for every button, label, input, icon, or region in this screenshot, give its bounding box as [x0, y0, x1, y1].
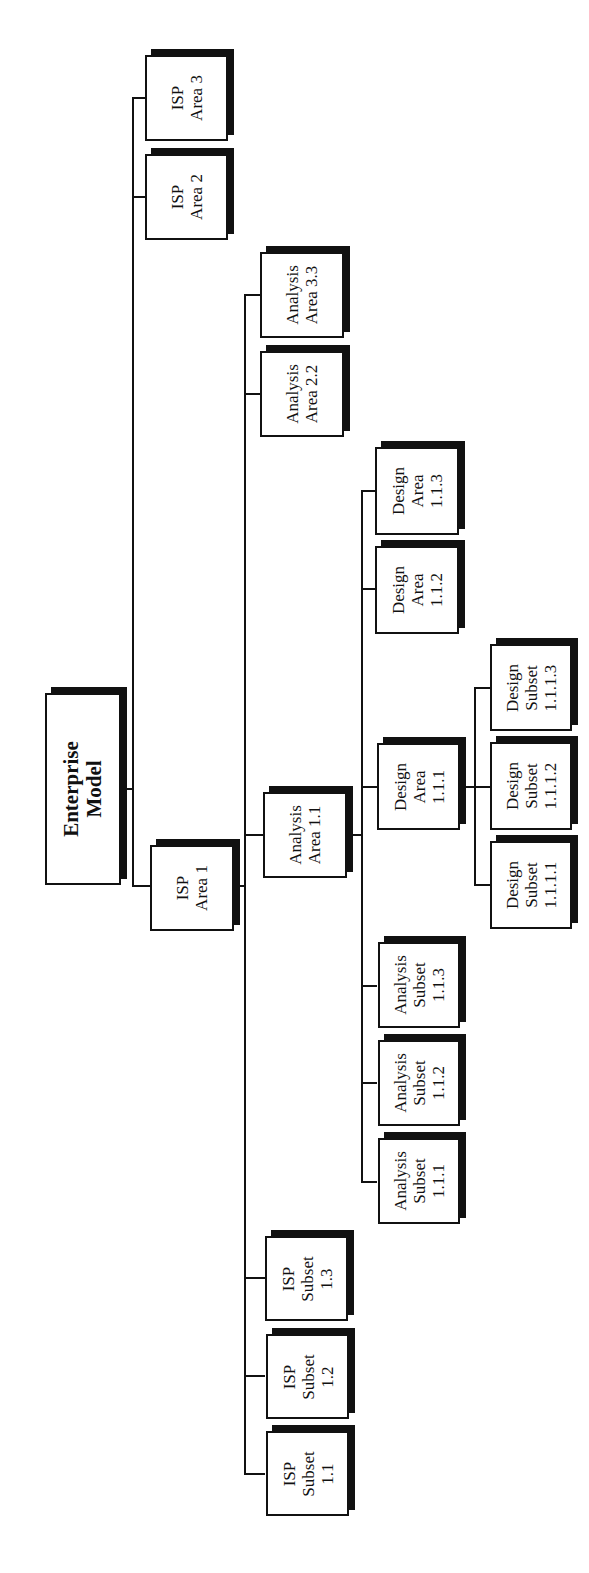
- node-label-line: Subset: [522, 663, 541, 711]
- node-label-line: ISP: [279, 1354, 298, 1399]
- node-label-line: Analysis: [391, 1151, 410, 1211]
- node-label-line: Design: [503, 762, 522, 810]
- node-isp-area-3: ISPArea 3: [145, 55, 228, 141]
- connector-design-1-1-1: [361, 786, 377, 788]
- node-analysis-area-2-2: AnalysisArea 2.2: [260, 351, 344, 437]
- connector-root-trunk: [132, 97, 134, 886]
- node-label-line: Subset: [298, 1354, 317, 1399]
- connector-isp-subset-1-1: [244, 1473, 265, 1475]
- node-label-line: 1.1.3: [427, 467, 446, 515]
- connector-analysis-3-3: [244, 294, 260, 296]
- node-label-line: Area 2.2: [302, 364, 321, 424]
- connector-analysis-subset-1-1-2: [361, 1082, 377, 1084]
- node-label-line: Subset: [410, 1053, 429, 1113]
- connector-analysis11-trunk: [361, 490, 363, 1183]
- node-label-line: Area 3: [187, 75, 206, 121]
- connector-analysis-2-2: [244, 393, 260, 395]
- connector-design-1-1-2: [361, 588, 375, 590]
- node-label-line: 1.1.1.3: [541, 663, 560, 711]
- node-label-line: ISP: [279, 1451, 298, 1496]
- node-isp-subset-1-2: ISPSubset1.2: [266, 1334, 349, 1419]
- node-label-line: Analysis: [391, 1053, 410, 1113]
- node-analysis-subset-1-1-1: AnalysisSubset1.1.1: [378, 1138, 460, 1224]
- node-design-subset-1-1-1-2: DesignSubset1.1.1.2: [490, 742, 572, 830]
- node-label-line: Design: [503, 861, 522, 909]
- node-design-area-1-1-3: DesignArea1.1.3: [375, 447, 459, 535]
- node-design-area-1-1-1: DesignArea1.1.1: [377, 743, 460, 830]
- node-label-line: Design: [389, 467, 408, 515]
- node-label-line: Area 1.1: [305, 805, 324, 865]
- node-label-line: Area 2: [187, 174, 206, 220]
- node-analysis-subset-1-1-2: AnalysisSubset1.1.2: [378, 1040, 460, 1126]
- node-analysis-area-3-3: AnalysisArea 3.3: [260, 252, 344, 338]
- node-analysis-subset-1-1-3: AnalysisSubset1.1.3: [378, 942, 460, 1028]
- connector-analysis-1-1: [244, 834, 263, 836]
- node-label-line: Area: [409, 762, 428, 810]
- node-label-line: 1.1.2: [429, 1053, 448, 1113]
- connector-isp-subset-1-2: [244, 1375, 265, 1377]
- connector-isp-area-1: [132, 885, 150, 887]
- node-label-line: 1.1.1.1: [541, 861, 560, 909]
- connector-isp-area-2: [132, 196, 146, 198]
- node-label-line: Area 3.3: [302, 265, 321, 325]
- node-label-line: Enterprise: [60, 741, 83, 837]
- node-isp-subset-1-3: ISPSubset1.3: [265, 1236, 348, 1321]
- node-label-line: Analysis: [283, 364, 302, 424]
- connector-isp-subset-1-3: [244, 1277, 265, 1279]
- node-label-line: 1.1.3: [429, 955, 448, 1015]
- node-label-line: Design: [390, 762, 409, 810]
- node-label-line: 1.1.1: [429, 1151, 448, 1211]
- node-label-line: Design: [389, 566, 408, 614]
- node-enterprise-model: EnterpriseModel: [45, 693, 121, 885]
- node-label-line: Analysis: [286, 805, 305, 865]
- node-label-line: Subset: [297, 1256, 316, 1301]
- node-label-line: Area: [408, 566, 427, 614]
- node-analysis-area-1-1: AnalysisArea 1.1: [263, 792, 347, 878]
- node-label-line: 1.1: [317, 1451, 336, 1496]
- node-label-line: Subset: [522, 762, 541, 810]
- node-label-line: Subset: [522, 861, 541, 909]
- node-isp-subset-1-1: ISPSubset1.1: [266, 1431, 349, 1516]
- node-label-line: 1.1.1.2: [541, 762, 560, 810]
- node-label-line: ISP: [168, 75, 187, 121]
- connector-analysis-subset-1-1-1: [361, 1181, 377, 1183]
- connector-analysis-subset-1-1-3: [361, 985, 377, 987]
- node-label-line: Subset: [410, 1151, 429, 1211]
- node-label-line: Analysis: [283, 265, 302, 325]
- connector-design-subset-1-1-1-1: [474, 884, 490, 886]
- node-label-line: 1.1.1: [428, 762, 447, 810]
- node-label-line: ISP: [168, 174, 187, 220]
- node-label-line: Area: [408, 467, 427, 515]
- connector-isp1-trunk: [244, 294, 246, 1474]
- node-isp-area-1: ISPArea 1: [150, 845, 234, 931]
- node-label-line: Design: [503, 663, 522, 711]
- node-label-line: 1.3: [316, 1256, 335, 1301]
- connector-design-subset-1-1-1-3: [474, 687, 490, 689]
- node-design-area-1-1-2: DesignArea1.1.2: [375, 546, 459, 634]
- node-design-subset-1-1-1-1: DesignSubset1.1.1.1: [490, 841, 572, 929]
- node-isp-area-2: ISPArea 2: [145, 154, 228, 240]
- node-label-line: Subset: [298, 1451, 317, 1496]
- node-label-line: 1.2: [317, 1354, 336, 1399]
- node-design-subset-1-1-1-3: DesignSubset1.1.1.3: [490, 644, 572, 731]
- connector-isp-area-3: [132, 97, 146, 99]
- node-label-line: 1.1.2: [427, 566, 446, 614]
- node-label-line: Subset: [410, 955, 429, 1015]
- node-label-line: Model: [83, 741, 106, 837]
- node-label-line: ISP: [278, 1256, 297, 1301]
- node-label-line: ISP: [173, 865, 192, 911]
- node-label-line: Analysis: [391, 955, 410, 1015]
- connector-design-1-1-3: [361, 490, 375, 492]
- node-label-line: Area 1: [192, 865, 211, 911]
- connector-design-subset-1-1-1-2: [474, 786, 490, 788]
